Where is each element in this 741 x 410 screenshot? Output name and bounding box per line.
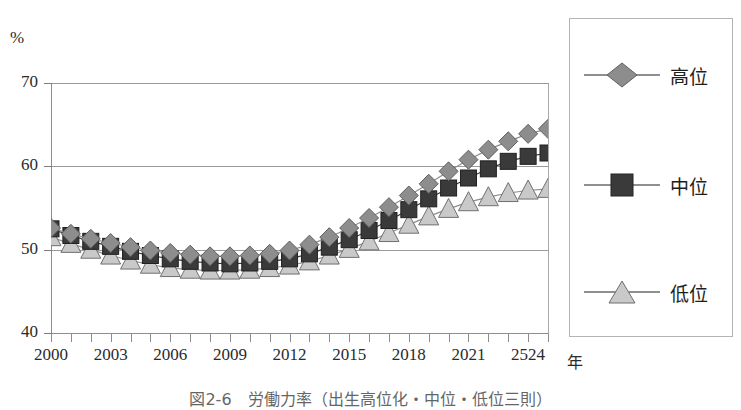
x-tick-label-2018: 2018 [379,345,439,365]
x-tick-mark-2004 [131,334,132,342]
x-tick-mark-2006 [170,334,171,342]
x-tick-mark-2010 [250,334,251,342]
data-point-高位-2022 [479,140,498,159]
data-point-中位-2022 [480,161,496,177]
x-tick-label-2000: 2000 [21,345,81,365]
series-低位 [51,178,548,279]
x-tick-label-2524: 2524 [498,345,558,365]
y-tick-label-60: 60 [8,155,38,175]
x-tick-mark-2019 [429,334,430,342]
x-tick-mark-2022 [488,334,489,342]
data-point-高位-2020 [439,162,458,181]
x-tick-mark-2009 [230,334,231,342]
x-tick-mark-2024 [528,334,529,342]
y-axis-unit-label: % [10,28,24,48]
legend-item-high[interactable]: 高位 [570,55,732,95]
data-point-中位-2021 [460,170,476,186]
x-tick-mark-2014 [329,334,330,342]
x-tick-mark-2011 [270,334,271,342]
x-tick-label-2015: 2015 [319,345,379,365]
legend-item-medium[interactable]: 中位 [570,165,732,205]
data-point-中位-2025 [540,145,548,161]
legend: 高位 中位 低位 [569,18,733,337]
y-tick-label-70: 70 [8,72,38,92]
x-tick-label-2003: 2003 [81,345,141,365]
figure-caption: 図2-6 労働力率（出生高位化・中位・低位三則） [0,386,741,410]
x-tick-label-2009: 2009 [200,345,260,365]
y-tick-label-50: 50 [8,239,38,259]
x-axis-line [51,333,549,334]
x-tick-mark-2018 [409,334,410,342]
data-point-高位-2021 [459,150,478,169]
x-tick-mark-2005 [150,334,151,342]
series-line-高位 [51,129,548,257]
x-tick-mark-2013 [309,334,310,342]
x-tick-mark-2017 [389,334,390,342]
x-tick-mark-2023 [508,334,509,342]
legend-marker-triangle-icon [580,277,664,307]
x-tick-mark-2025 [548,334,549,342]
data-point-高位-2023 [499,132,518,151]
y-tick-label-40: 40 [8,322,38,342]
data-point-低位-2020 [439,198,459,217]
series-plot-area [51,83,548,333]
data-point-低位-2021 [458,192,478,211]
data-point-中位-2024 [520,148,536,164]
x-tick-mark-2008 [210,334,211,342]
data-point-高位-2024 [519,124,538,143]
x-tick-mark-2001 [71,334,72,342]
x-tick-mark-2020 [449,334,450,342]
x-tick-mark-2002 [91,334,92,342]
x-tick-label-2012: 2012 [260,345,320,365]
legend-item-low[interactable]: 低位 [570,272,732,312]
data-point-低位-2019 [419,206,439,225]
legend-label-medium: 中位 [670,172,708,199]
x-tick-mark-2016 [369,334,370,342]
data-point-中位-2020 [441,180,457,196]
plot-right-border [548,83,549,334]
data-point-中位-2023 [500,153,516,169]
x-tick-label-2006: 2006 [140,345,200,365]
data-point-低位-2025 [538,178,548,197]
legend-label-low: 低位 [670,279,708,306]
x-tick-mark-2012 [290,334,291,342]
x-tick-mark-2007 [190,334,191,342]
x-tick-mark-2003 [111,334,112,342]
series-高位 [51,119,548,265]
x-tick-label-2021: 2021 [438,345,498,365]
legend-label-high: 高位 [670,62,708,89]
data-point-高位-2025 [539,119,549,138]
x-tick-mark-2000 [51,334,52,342]
x-tick-mark-2015 [349,334,350,342]
x-axis-unit-label: 年 [567,349,583,373]
legend-marker-diamond-icon [580,60,664,90]
legend-marker-square-icon [580,170,664,200]
x-tick-mark-2021 [468,334,469,342]
